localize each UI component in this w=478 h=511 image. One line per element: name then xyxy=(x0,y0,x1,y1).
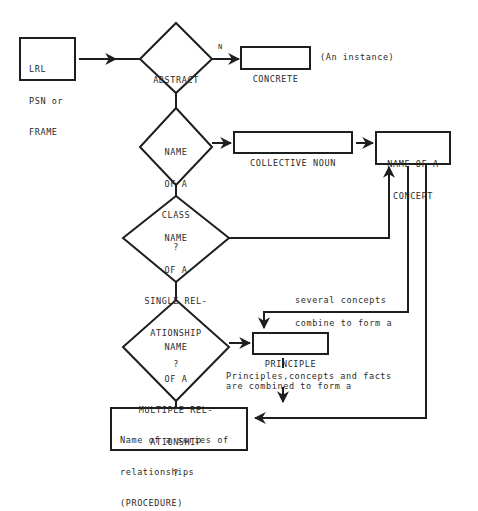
procedure-label: Name of a series of relationships (PROCE… xyxy=(120,414,245,511)
concepts-combine-bottom: combine to form a xyxy=(295,318,392,329)
principles-combine-line1: Principles,concepts and facts xyxy=(226,371,392,382)
concept-label: NAME OF A CONCEPT xyxy=(376,138,450,212)
start-label: LRL PSN or FRAME xyxy=(29,43,74,148)
abstract-label: ABSTRACT xyxy=(146,54,206,96)
concrete-label: CONCRETE xyxy=(241,53,310,95)
concrete-note: (An instance) xyxy=(320,52,394,63)
concepts-combine-top: several concepts xyxy=(295,295,386,306)
abstract-no-label: N xyxy=(218,42,223,53)
principles-combine-line2: are combined to form a xyxy=(226,381,352,392)
collective-noun-label: COLLECTIVE NOUN xyxy=(234,137,352,179)
